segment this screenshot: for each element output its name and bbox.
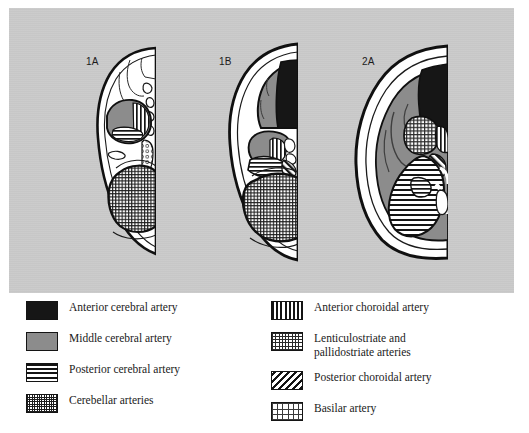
legend: Anterior cerebral artery Middle cerebral… <box>0 300 529 433</box>
legend-label-posterior-choroidal: Posterior choroidal artery <box>314 370 432 385</box>
legend-label-anterior-cerebral: Anterior cerebral artery <box>69 300 178 315</box>
legend-item-cerebellar: Cerebellar arteries <box>26 393 276 413</box>
swatch-basilar <box>271 402 303 421</box>
swatch-posterior-choroidal <box>271 371 303 390</box>
legend-label-lenticulostriate-line1: Lenticulostriate and <box>314 332 406 344</box>
swatch-middle-cerebral <box>26 332 58 351</box>
legend-label-middle-cerebral: Middle cerebral artery <box>69 331 172 346</box>
anatomy-figure: 1A 1B 2A <box>0 0 529 433</box>
legend-item-middle-cerebral: Middle cerebral artery <box>26 331 276 351</box>
legend-label-lenticulostriate: Lenticulostriate and pallidostriate arte… <box>314 331 411 359</box>
cerebellar-territory-1b <box>243 174 298 242</box>
aca-territory-1b <box>276 60 298 128</box>
brain-section-1a <box>96 46 156 258</box>
nucleus-chip-1a-a <box>143 83 152 93</box>
slit-1a <box>108 151 125 159</box>
legend-item-basilar: Basilar artery <box>271 401 521 421</box>
legend-item-posterior-cerebral: Posterior cerebral artery <box>26 362 276 382</box>
brain-section-2a <box>352 44 448 260</box>
swatch-lenticulostriate <box>271 332 303 351</box>
nucleus-chip-1b-a <box>284 139 295 152</box>
legend-left-column: Anterior cerebral artery Middle cerebral… <box>26 300 276 424</box>
swatch-anterior-choroidal <box>271 301 303 320</box>
swatch-posterior-cerebral <box>26 363 58 382</box>
brain-section-1b <box>228 42 298 262</box>
legend-label-anterior-choroidal: Anterior choroidal artery <box>314 300 429 315</box>
legend-right-column: Anterior choroidal artery Lenticulostria… <box>271 300 521 432</box>
lenticulostriate-territory-2a <box>404 116 439 154</box>
cerebellar-territory-1a <box>108 166 156 232</box>
legend-item-lenticulostriate: Lenticulostriate and pallidostriate arte… <box>271 331 521 359</box>
legend-item-anterior-choroidal: Anterior choroidal artery <box>271 300 521 320</box>
midbrain-oval-2a <box>411 177 431 197</box>
swatch-anterior-cerebral <box>26 301 58 320</box>
legend-label-lenticulostriate-line2: pallidostriate arteries <box>314 346 411 360</box>
legend-label-posterior-cerebral: Posterior cerebral artery <box>69 362 180 377</box>
legend-item-anterior-cerebral: Anterior cerebral artery <box>26 300 276 320</box>
legend-label-basilar: Basilar artery <box>314 401 376 416</box>
legend-item-posterior-choroidal: Posterior choroidal artery <box>271 370 521 390</box>
nucleus-chip-1a-b <box>146 98 154 108</box>
temporal-horn-2a <box>436 190 448 215</box>
swatch-cerebellar <box>26 394 58 413</box>
legend-label-cerebellar: Cerebellar arteries <box>69 393 154 408</box>
